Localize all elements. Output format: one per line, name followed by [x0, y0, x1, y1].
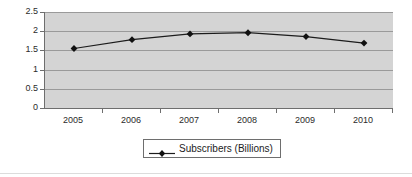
y-axis-tick-label: 1: [4, 65, 38, 74]
x-axis-tick-label: 2006: [102, 115, 160, 125]
bottom-divider: [0, 173, 412, 174]
data-point-marker: [303, 33, 310, 40]
x-axis-tick-mark: [218, 109, 219, 113]
x-axis-tick-label: 2007: [160, 115, 218, 125]
x-axis-tick-mark: [102, 109, 103, 113]
y-axis-tick-label: 0.5: [4, 84, 38, 93]
plot-area: [44, 12, 393, 109]
legend: Subscribers (Billions): [143, 139, 281, 158]
x-axis-tick-label: 2008: [218, 115, 276, 125]
x-axis-tick-label: 2005: [44, 115, 102, 125]
x-axis-tick-label: 2009: [276, 115, 334, 125]
legend-marker-diamond-icon: [149, 144, 175, 153]
x-axis-tick-label: 2010: [334, 115, 392, 125]
y-axis-tick-label: 2.5: [4, 7, 38, 16]
line-chart: 00.511.522.5 200520062007200820092010 Su…: [0, 0, 412, 177]
data-point-marker: [187, 30, 194, 37]
series-subscribers: [45, 12, 393, 108]
y-axis-tick-label: 1.5: [4, 45, 38, 54]
data-point-marker: [71, 45, 78, 52]
x-axis-tick-mark: [160, 109, 161, 113]
y-axis-tick-label: 2: [4, 26, 38, 35]
x-axis-tick-mark: [334, 109, 335, 113]
series-line: [74, 33, 364, 49]
data-point-marker: [245, 29, 252, 36]
y-axis-tick-label: 0: [4, 103, 38, 112]
x-axis-tick-mark: [276, 109, 277, 113]
data-point-marker: [129, 36, 136, 43]
legend-label: Subscribers (Billions): [179, 143, 273, 154]
data-point-marker: [361, 40, 368, 47]
x-axis-tick-mark: [392, 109, 393, 113]
